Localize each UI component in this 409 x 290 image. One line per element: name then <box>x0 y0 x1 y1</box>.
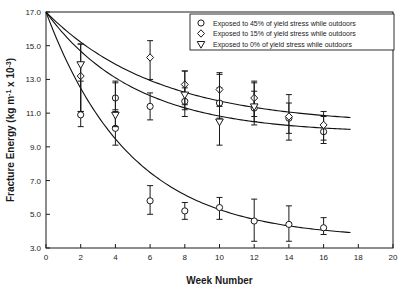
marker-circle <box>216 204 222 210</box>
x-tick-label: 18 <box>354 253 363 262</box>
x-tick-label: 8 <box>183 253 188 262</box>
legend-label-0: Exposed to 45% of yield stress while out… <box>213 20 356 28</box>
marker-diamond <box>147 54 154 61</box>
y-tick-label: 3.0 <box>30 244 42 253</box>
marker-circle <box>147 198 153 204</box>
x-tick-label: 0 <box>44 253 49 262</box>
x-axis-title: Week Number <box>186 275 253 286</box>
legend-label-2: Exposed to 0% of yield stress while outd… <box>213 41 352 49</box>
y-tick-label: 7.0 <box>30 177 42 186</box>
legend: Exposed to 45% of yield stress while out… <box>190 14 394 50</box>
y-tick-label: 13.0 <box>25 75 41 84</box>
series-2 <box>77 44 258 145</box>
marker-triangle-down <box>181 92 189 99</box>
y-axis-title: Fracture Energy (kg m-1 x 10-3) <box>5 58 17 202</box>
marker-circle <box>321 225 327 231</box>
y-tick-label: 15.0 <box>25 42 41 51</box>
x-tick-label: 2 <box>78 253 83 262</box>
x-tick-label: 16 <box>319 253 328 262</box>
marker-circle <box>286 221 292 227</box>
marker-triangle-down <box>216 119 224 126</box>
chart-figure: 024681012141618203.05.07.09.011.013.015.… <box>0 0 409 290</box>
marker-circle <box>251 218 257 224</box>
x-tick-label: 12 <box>250 253 259 262</box>
y-tick-label: 9.0 <box>30 143 42 152</box>
x-tick-label: 20 <box>389 253 398 262</box>
legend-label-1: Exposed to 15% of yield stress while out… <box>213 30 356 38</box>
marker-triangle-down <box>77 62 85 69</box>
y-tick-label: 5.0 <box>30 210 42 219</box>
legend-marker-0 <box>198 20 204 26</box>
x-tick-label: 10 <box>215 253 224 262</box>
error-bar <box>217 74 223 145</box>
scatter-plot-svg: 024681012141618203.05.07.09.011.013.015.… <box>0 0 409 290</box>
marker-triangle-down <box>112 112 120 119</box>
marker-circle <box>147 103 153 109</box>
marker-circle <box>78 112 84 118</box>
marker-circle <box>182 208 188 214</box>
x-tick-label: 4 <box>113 253 118 262</box>
marker-circle <box>198 20 204 26</box>
y-tick-label: 17.0 <box>25 8 41 17</box>
y-tick-label: 11.0 <box>26 109 42 118</box>
x-tick-label: 6 <box>148 253 153 262</box>
x-tick-label: 14 <box>284 253 293 262</box>
